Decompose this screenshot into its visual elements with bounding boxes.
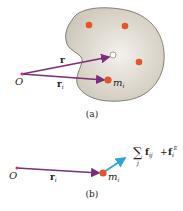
r-label: r bbox=[60, 55, 65, 65]
vector-ri-b bbox=[17, 168, 99, 173]
sum-symbol: ∑ bbox=[133, 145, 143, 160]
ri-label-b: ri bbox=[50, 172, 57, 183]
particle-dot bbox=[136, 59, 143, 66]
origin-label: O bbox=[15, 76, 23, 87]
sum-index: j bbox=[135, 159, 139, 167]
internal-force-label: fij bbox=[145, 147, 153, 159]
plus-sign: + bbox=[160, 147, 168, 157]
external-force-label: fiE bbox=[168, 145, 178, 158]
figure-a: O r ri mi (a) bbox=[15, 8, 164, 119]
mass-label-b: mi bbox=[108, 171, 119, 183]
caption-a: (a) bbox=[86, 109, 98, 119]
caption-b: (b) bbox=[86, 189, 99, 199]
figure-b: O ri mi ∑ j fij + fiE (b) bbox=[9, 145, 178, 199]
particle-dot bbox=[122, 23, 129, 30]
particle-mi-b bbox=[99, 169, 106, 176]
force-vector bbox=[104, 158, 125, 172]
particle-mi bbox=[104, 76, 111, 83]
center-of-mass-diagram: O r ri mi (a) O ri mi ∑ j fij + fiE (b) bbox=[0, 0, 183, 211]
origin-label-b: O bbox=[9, 170, 17, 181]
ri-label: ri bbox=[57, 79, 64, 90]
particle-dot bbox=[86, 22, 93, 29]
force-expression: ∑ j fij + fiE bbox=[133, 145, 178, 167]
center-of-mass-point bbox=[110, 52, 116, 58]
